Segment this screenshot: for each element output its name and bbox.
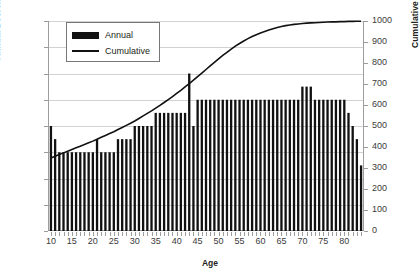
bar <box>360 165 362 231</box>
bar <box>108 152 110 231</box>
bar <box>289 100 291 231</box>
bar <box>343 100 345 231</box>
bar <box>335 100 337 231</box>
bar <box>167 113 169 231</box>
bar <box>142 126 144 231</box>
bar <box>222 100 224 231</box>
bar <box>113 152 115 231</box>
bar <box>243 100 245 231</box>
bar <box>255 100 257 231</box>
bar <box>50 126 52 231</box>
bar <box>79 152 81 231</box>
legend-item-cumulative: Cumulative <box>72 43 154 59</box>
bar <box>259 100 261 231</box>
bar <box>268 100 270 231</box>
bar <box>71 152 73 231</box>
bar <box>331 100 333 231</box>
bar <box>297 100 299 231</box>
bar <box>247 100 249 231</box>
bar <box>58 152 60 231</box>
bar <box>54 139 56 231</box>
y-axis-left-title: Annual Decrements of Life <box>0 0 2 60</box>
bar <box>272 100 274 231</box>
bar <box>83 152 85 231</box>
bar <box>75 152 77 231</box>
bar <box>234 100 236 231</box>
bar <box>318 100 320 231</box>
bar <box>356 139 358 231</box>
bar <box>188 74 190 232</box>
bar <box>155 113 157 231</box>
bar <box>121 139 123 231</box>
legend-label-cumulative: Cumulative <box>105 47 150 56</box>
bar <box>238 100 240 231</box>
legend-label-annual: Annual <box>105 31 133 40</box>
bar <box>230 100 232 231</box>
chart-container: 0246810121416 01002003004005006007008009… <box>0 0 420 278</box>
chart-legend: Annual Cumulative <box>66 22 160 62</box>
bar <box>293 100 295 231</box>
bar <box>88 152 90 231</box>
bar <box>352 126 354 231</box>
bar <box>146 126 148 231</box>
x-axis-title: Age <box>0 258 420 268</box>
bar <box>117 139 119 231</box>
bar <box>201 100 203 231</box>
bar <box>125 139 127 231</box>
bar <box>213 100 215 231</box>
bar <box>339 100 341 231</box>
bar <box>305 87 307 231</box>
bar <box>310 87 312 231</box>
chart-graphics <box>0 0 420 278</box>
bar <box>192 126 194 231</box>
bar <box>347 113 349 231</box>
legend-bar-swatch-icon <box>72 32 99 39</box>
bar <box>251 100 253 231</box>
bar <box>163 113 165 231</box>
bar <box>138 126 140 231</box>
bar <box>314 100 316 231</box>
bar <box>176 113 178 231</box>
bar <box>217 100 219 231</box>
bar <box>96 139 98 231</box>
legend-item-annual: Annual <box>72 27 154 43</box>
bar <box>326 100 328 231</box>
bar <box>322 100 324 231</box>
bar <box>92 152 94 231</box>
bar <box>196 100 198 231</box>
bar <box>171 113 173 231</box>
bar <box>209 100 211 231</box>
bar <box>276 100 278 231</box>
bar <box>301 87 303 231</box>
bar <box>62 152 64 231</box>
bar <box>100 152 102 231</box>
bar <box>134 126 136 231</box>
legend-line-swatch-icon <box>72 50 99 52</box>
bar <box>205 100 207 231</box>
bar <box>180 113 182 231</box>
bar <box>264 100 266 231</box>
bar <box>150 126 152 231</box>
y-axis-right-title: Cumulative Decrements of Life <box>410 0 420 48</box>
bar <box>104 152 106 231</box>
bar <box>226 100 228 231</box>
bar <box>280 100 282 231</box>
bar <box>284 100 286 231</box>
bar <box>159 113 161 231</box>
bar <box>184 113 186 231</box>
bar <box>67 152 69 231</box>
bar <box>129 139 131 231</box>
